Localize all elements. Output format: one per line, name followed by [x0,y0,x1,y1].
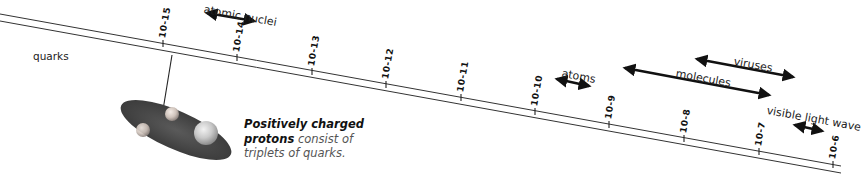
proton-caption: Positively charged protons consist of tr… [244,117,364,161]
caption-line3: triplets of quarks. [244,146,346,160]
proton-illustration [113,88,238,172]
quark-sphere-large [194,121,218,145]
pointer-line [163,55,172,110]
range-arrows [207,13,822,131]
caption-bold-line1: Positively charged [244,117,364,131]
scale-ruler [0,14,841,173]
quark-sphere-top [165,107,179,121]
quark-sphere-left [136,123,150,137]
caption-bold-line2: protons [244,132,294,146]
quarks-label: quarks [33,50,69,62]
caption-rest-line2: consist of [294,132,353,146]
